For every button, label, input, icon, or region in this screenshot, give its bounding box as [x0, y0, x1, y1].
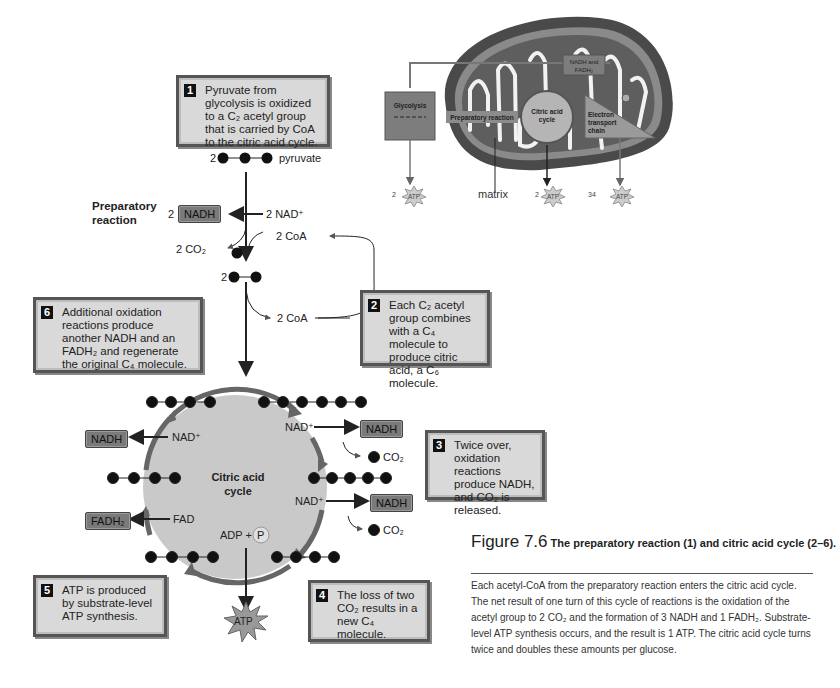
step-4-number: 4: [316, 589, 328, 602]
atp-starburst-label: ATP: [234, 616, 253, 627]
step-3-box: 3 Twice over, oxidation reactions produc…: [425, 430, 545, 500]
nad-left: NAD⁺: [172, 431, 201, 444]
step-5-text: ATP is produced by substrate-level ATP s…: [62, 584, 152, 622]
step-2-box: 2 Each C₂ acetyl group combines with a C…: [360, 290, 490, 366]
svg-text:2: 2: [535, 191, 539, 198]
svg-text:chain: chain: [588, 127, 605, 134]
preparatory-reaction-heading: Preparatory reaction: [92, 199, 152, 227]
co2-prep: 2 CO₂: [176, 243, 206, 255]
phosphate-label: P: [257, 529, 264, 541]
svg-text:Electron: Electron: [588, 111, 614, 118]
svg-text:ATP: ATP: [616, 193, 628, 200]
svg-text:cycle: cycle: [539, 116, 556, 124]
nadh-badge-right-top: NADH: [360, 420, 403, 438]
step-4-text: The loss of two CO₂ results in a new C₄ …: [337, 589, 418, 640]
step-3-number: 3: [433, 439, 445, 452]
coa-top: 2 CoA: [276, 230, 307, 242]
figure-caption-body: Each acetyl-CoA from the preparatory rea…: [471, 578, 816, 658]
svg-text:NADH and: NADH and: [570, 59, 599, 65]
nadh-coef: 2: [168, 208, 174, 220]
nad-prep: 2 NAD⁺: [266, 208, 304, 221]
step-1-box: 1 Pyruvate from glycolysis is oxidized t…: [176, 75, 330, 147]
nadh-badge-right-bottom: NADH: [370, 494, 413, 512]
step-5-box: 5 ATP is produced by substrate-level ATP…: [33, 575, 167, 637]
caption-divider: [471, 573, 813, 574]
co2-right-bottom: CO₂: [383, 524, 404, 536]
nad-right-top: NAD⁺: [285, 421, 314, 434]
nadh-badge-prep: NADH: [178, 205, 221, 223]
co2-right-top: CO₂: [383, 451, 404, 463]
step-6-box: 6 Additional oxidation reactions produce…: [33, 297, 203, 373]
fadh2-badge: FADH₂: [85, 512, 131, 530]
step-4-box: 4 The loss of two CO₂ results in a new C…: [308, 580, 430, 642]
nadh-badge-left: NADH: [85, 430, 128, 448]
figure-title: The preparatory reaction (1) and citric …: [551, 537, 837, 549]
cycle-center-label: Citric acid cycle: [208, 470, 268, 498]
figure-number: Figure 7.6: [471, 532, 548, 551]
svg-text:FADH₂: FADH₂: [575, 67, 594, 73]
acetyl-coef: 2: [221, 271, 227, 283]
step-1-text: Pyruvate from glycolysis is oxidized to …: [205, 84, 317, 148]
fad-label: FAD: [173, 513, 194, 525]
svg-text:matrix: matrix: [478, 188, 508, 200]
svg-text:ATP: ATP: [547, 193, 559, 200]
figure-caption-title: Figure 7.6 The preparatory reaction (1) …: [471, 533, 840, 552]
step-6-number: 6: [41, 306, 53, 319]
coa-bottom: 2 CoA: [277, 312, 308, 324]
svg-text:34: 34: [588, 191, 596, 198]
step-3-text: Twice over, oxidation reactions produce …: [454, 439, 535, 516]
pyruvate-label: pyruvate: [279, 152, 321, 164]
nad-right-bottom: NAD⁺: [295, 495, 324, 508]
step-2-number: 2: [368, 299, 380, 312]
step-5-number: 5: [41, 584, 53, 597]
svg-text:Citric acid: Citric acid: [531, 108, 562, 115]
pyruvate-coef: 2: [210, 152, 216, 164]
adp-label: ADP +: [220, 529, 252, 541]
step-1-number: 1: [184, 84, 196, 97]
step-6-text: Additional oxidation reactions produce a…: [62, 306, 187, 370]
svg-text:transport: transport: [588, 119, 617, 127]
